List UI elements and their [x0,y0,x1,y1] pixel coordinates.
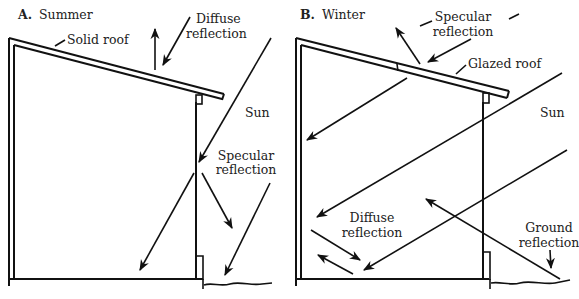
label-diffuse-2: reflection [186,26,247,41]
label-sun-b: Sun [540,105,565,120]
solid-roof [9,38,224,100]
panel-a-summer: A. Summer Solid roof [9,7,276,289]
label-diffuse-1: Diffuse [196,11,241,26]
ground-ray-arrow-icon [225,183,270,275]
label-sun-a: Sun [245,105,270,120]
panel-b-letter: B. [300,7,315,22]
label-diffuse-2-b: reflection [342,225,403,240]
glazing-divider [397,64,398,71]
label-specular-1-a: Specular [218,148,274,163]
sun-ray-floor-arrow-icon [364,150,567,270]
panel-b-heading: B. Winter [300,7,365,22]
specular-reflect-arrow-in-icon [140,173,194,270]
ground-reflection-pointer-icon [550,250,551,268]
panel-a-letter: A. [17,7,32,22]
label-solid-roof: Solid roof [67,32,130,47]
panel-b-winter: B. Winter Specular reflection [296,7,579,289]
diffuse-up-arrow-icon [318,255,353,274]
foundation-step [483,252,490,280]
label-ground-1: Ground [525,220,573,235]
ground-line [491,280,570,284]
label-specular-2-a: reflection [216,162,277,177]
sun-ray-arrow-icon [317,73,562,217]
incoming-ray-dash [509,14,519,19]
panel-a-title: Summer [39,7,93,22]
foundation-step [196,256,203,280]
transmitted-ray-arrow-icon [307,78,407,140]
eave-bracket-icon [483,93,489,103]
specular-incoming-arrow-icon [428,39,471,62]
panel-a-heading: A. Summer [17,7,93,22]
solar-reflection-diagram: A. Summer Solid roof [0,0,579,299]
specular-outgoing-arrow-icon [396,28,420,64]
label-specular-2-b: reflection [433,24,494,39]
label-ground-2: reflection [519,235,579,250]
label-specular-1-b: Specular [435,9,491,24]
label-glazed-roof: Glazed roof [468,56,542,71]
sun-ray-arrow-icon [199,38,271,162]
incoming-diffuse-arrow-icon [163,17,190,65]
label-diffuse-1-b: Diffuse [350,210,395,225]
specular-incoming-dash [420,21,432,26]
panel-b-building [296,38,570,289]
specular-reflect-arrow-out-icon [202,173,232,228]
panel-b-title: Winter [322,7,365,22]
ground-line [204,283,272,285]
